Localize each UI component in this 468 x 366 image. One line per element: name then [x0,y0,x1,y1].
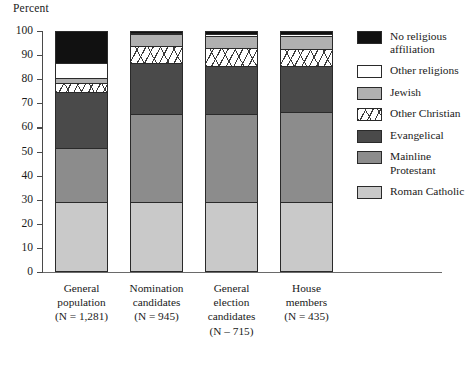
segment-divider [281,66,332,67]
y-tick-mark [37,127,43,128]
segment-divider [281,36,332,37]
y-tick-label: 10 [3,242,33,254]
y-tick-mark [37,272,43,273]
segment-divider [131,46,182,47]
segment-divider [281,112,332,113]
legend-label: Evangelical [390,129,444,142]
segment-evangelical[interactable] [206,66,257,114]
y-tick-label: 100 [3,25,33,37]
legend-label: Other Christian [390,107,461,120]
segment-evangelical[interactable] [131,63,182,114]
segment-other-christian[interactable] [281,49,332,66]
segment-jewish[interactable] [206,36,257,48]
legend-item-roman-catholic[interactable]: Roman Catholic [357,185,468,199]
legend-item-evangelical[interactable]: Evangelical [357,129,468,143]
segment-other-christian[interactable] [131,46,182,63]
segment-mainline-protestant[interactable] [281,112,332,202]
segment-roman-catholic[interactable] [206,202,257,272]
legend-item-jewish[interactable]: Jewish [357,86,468,100]
legend-label-line: Evangelical [390,129,444,142]
y-tick-label: 80 [3,73,33,85]
legend-swatch [357,151,382,164]
segment-divider [206,36,257,37]
segment-other-christian[interactable] [56,83,107,93]
y-tick-label: 0 [3,266,33,278]
legend-item-other-christian[interactable]: Other Christian [357,107,468,121]
y-tick-mark [37,248,43,249]
y-tick-mark [37,200,43,201]
segment-mainline-protestant[interactable] [206,114,257,202]
legend-item-other-religions[interactable]: Other religions [357,64,468,78]
segment-divider [56,63,107,64]
legend-label-line: Protestant [390,164,436,177]
plot-area: 1009080706050403020100 [42,31,340,272]
legend-swatch [357,31,382,44]
legend-label-line: affiliation [390,43,447,56]
legend-label: Roman Catholic [390,185,464,198]
segment-evangelical[interactable] [281,66,332,112]
x-axis-label-line: House [255,281,359,295]
legend-label-line: No religious [390,30,447,43]
legend-swatch [357,186,382,199]
legend: No religiousaffiliationOther religionsJe… [357,30,468,206]
y-tick-label: 50 [3,146,33,158]
y-tick-label: 30 [3,194,33,206]
legend-swatch [357,130,382,143]
legend-swatch [357,108,382,121]
bar-general-election-candidates[interactable] [205,31,258,272]
legend-label-line: Other religions [390,64,459,77]
legend-label: Jewish [390,86,421,99]
legend-item-mainline-protestant[interactable]: MainlineProtestant [357,150,468,177]
segment-roman-catholic[interactable] [56,202,107,272]
y-tick-mark [37,103,43,104]
segment-mainline-protestant[interactable] [131,114,182,202]
y-tick-mark [37,152,43,153]
segment-divider [206,66,257,67]
x-axis-line [42,272,442,273]
segment-mainline-protestant[interactable] [56,148,107,202]
segment-no-religious-affiliation[interactable] [56,32,107,63]
legend-label-line: Mainline [390,150,436,163]
segment-divider [56,202,107,203]
y-tick-label: 70 [3,98,33,110]
segment-divider [56,83,107,84]
y-tick-mark [37,224,43,225]
segment-jewish[interactable] [281,36,332,49]
stacked-bar-chart: Percent 1009080706050403020100 Generalpo… [0,0,468,366]
bar-general-population[interactable] [55,31,108,272]
segment-divider [131,114,182,115]
x-axis-label-line: members [255,295,359,309]
legend-label-line: Jewish [390,86,421,99]
y-tick-mark [37,79,43,80]
y-tick-mark [37,176,43,177]
segment-roman-catholic[interactable] [131,202,182,272]
bar-house-members[interactable] [280,31,333,272]
bar-nomination-candidates[interactable] [130,31,183,272]
legend-label-line: Other Christian [390,107,461,120]
segment-divider [206,114,257,115]
y-tick-mark [37,31,43,32]
legend-swatch [357,87,382,100]
y-tick-label: 40 [3,170,33,182]
segment-divider [281,202,332,203]
segment-other-religions[interactable] [56,63,107,77]
segment-divider [56,148,107,149]
segment-divider [206,202,257,203]
segment-roman-catholic[interactable] [281,202,332,272]
x-axis-label-line: (N = 435) [255,309,359,323]
legend-swatch [357,65,382,78]
segment-other-christian[interactable] [206,48,257,66]
legend-label: No religiousaffiliation [390,30,447,57]
legend-label: MainlineProtestant [390,150,436,177]
legend-item-no-religious-affiliation[interactable]: No religiousaffiliation [357,30,468,57]
y-tick-mark [37,55,43,56]
x-axis-label-3: Housemembers(N = 435) [255,281,359,324]
segment-divider [56,78,107,79]
segment-jewish[interactable] [131,34,182,46]
y-axis-title: Percent [13,2,49,14]
segment-divider [131,63,182,64]
segment-evangelical[interactable] [56,92,107,147]
segment-divider [281,49,332,50]
legend-label: Other religions [390,64,459,77]
y-tick-label: 60 [3,122,33,134]
